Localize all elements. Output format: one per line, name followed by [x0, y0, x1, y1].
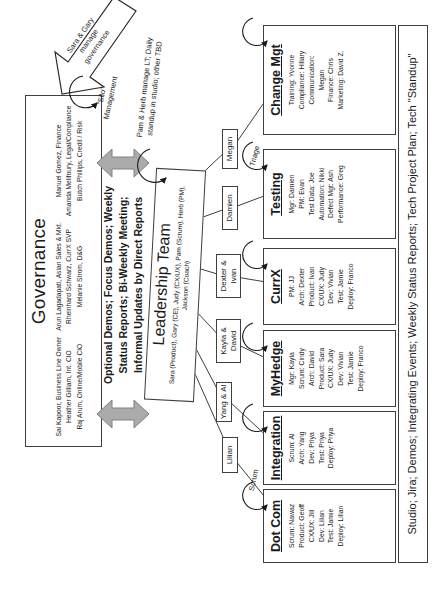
governance-member: Manuel Gomez, Finance — [54, 106, 64, 217]
cadence-line: Status Reports; Bi-Weekly Meeting; — [116, 171, 131, 399]
governance-member: Raj Arum, Online/Mobile CIO — [75, 337, 85, 437]
governance-member: Amanda Melifoury, Legal/Compliance — [64, 106, 74, 217]
governance-member: Arun Lagadapati, Asian Sales & Mkt. — [54, 222, 64, 331]
lead-name: Megan — [225, 137, 234, 161]
roster-line: Deploy: Priya — [326, 412, 336, 484]
roster-line: Deploy: Lilian — [336, 490, 346, 562]
roster-line: Arch: Yang — [297, 412, 307, 484]
team-roster: Mgr: Damien PM: Evan Test Data: Joe Auto… — [287, 150, 346, 238]
governance-member: Heather Gilliam, Int. CIO — [64, 337, 74, 437]
lead-name: Damien — [225, 194, 234, 222]
roster-line: Dev: Vivian — [326, 249, 336, 324]
roster-line: Product: Geoff — [297, 490, 307, 562]
governance-members: Sai Kapoor, Business Line Owner Heather … — [54, 96, 85, 446]
roster-line: Marketing: David Z. — [336, 26, 346, 134]
lead-box-dexter-ivan: Dexter & Ivan — [216, 254, 241, 298]
team-title: Dot Com — [269, 490, 283, 562]
governance-member: Butch Phillips, Credit / Risk — [75, 106, 85, 217]
roster-line: Megan — [317, 26, 327, 134]
roster-line: Scrum: Nawaz — [287, 490, 297, 562]
roster-line: PM: JJ — [287, 249, 297, 324]
rotated-diagram-screenshot: Governance Sai Kapoor, Business Line Own… — [0, 0, 441, 599]
lead-box-lilian: Lilian — [222, 437, 238, 473]
shared-tools-bar: Studio; Jira; Demos; Integrating Events;… — [398, 25, 428, 563]
reporting-cadence-text: Optional Demos; Focus Demos; Weekly Stat… — [101, 171, 147, 399]
roster-line: Test: Jamie — [336, 249, 346, 324]
team-roster: Scrum: Nawaz Product: Geoff CX/UX: Jill … — [287, 490, 346, 562]
roster-line: Performance: Greg — [336, 150, 346, 238]
cadence-line: Informal Updates by Direct Reports — [131, 171, 146, 399]
lead-box-megan: Megan — [222, 129, 238, 169]
governance-column-3: Manuel Gomez, Finance Amanda Melifoury, … — [54, 106, 85, 217]
team-title: Integration — [269, 412, 283, 484]
roster-line: Dev: Vivian — [336, 331, 346, 406]
team-roster: PM: JJ Arch: Dexter Product: Ivan CX/UX:… — [287, 249, 356, 324]
roster-line: Communication: — [307, 26, 317, 134]
team-box-myhedge: MyHedge Mgr: Kayla Scrum: Cindy Arch: Da… — [263, 330, 396, 407]
roster-line: Mgr: Damien — [287, 150, 297, 238]
team-roster: Scrum: Al Arch: Yang Dev: Priya Test: Pr… — [287, 412, 336, 484]
roster-line: CX/UX: Judy — [317, 249, 327, 324]
roster-line: Training: Yvonne — [287, 26, 297, 134]
roster-line: Arch: Dexter — [297, 249, 307, 324]
roster-line: Compliance: Hillary — [297, 26, 307, 134]
roster-line: Deploy: Franco — [346, 249, 356, 324]
roster-line: Test Data: Joe — [307, 150, 317, 238]
governance-member: Rheinhard Schwarz, CurrX SVP — [64, 222, 74, 331]
team-title: Testing — [269, 150, 283, 238]
roster-line: Product: Sara — [317, 331, 327, 406]
roster-line: PM: Evan — [297, 150, 307, 238]
team-box-changemgt: Change Mgt Training: Yvonne Compliance: … — [263, 25, 396, 135]
team-title: MyHedge — [269, 331, 283, 406]
roster-line: CX/UX: Judy — [326, 331, 336, 406]
roster-line: Deploy: Franco — [356, 331, 366, 406]
roster-line: Test: Priya — [317, 412, 327, 484]
lead-name: Dexter & Ivan — [219, 260, 238, 291]
shared-tools-text: Studio; Jira; Demos; Integrating Events;… — [399, 26, 426, 562]
lead-box-kayla-david: Kayla & David — [216, 319, 241, 363]
team-box-testing: Testing Mgr: Damien PM: Evan Test Data: … — [263, 149, 396, 239]
roster-line: Defect Mgt: Ash — [326, 150, 336, 238]
cadence-line: Optional Demos; Focus Demos; Weekly — [101, 171, 116, 399]
lead-box-yang-al: Yang & Al — [216, 382, 232, 422]
roster-line: CX/UX: Jill — [307, 490, 317, 562]
team-title: Change Mgt — [269, 26, 283, 134]
roster-line: Arch: David — [307, 331, 317, 406]
lead-name: Kayla & David — [219, 327, 238, 355]
roster-line: Product: Ivan — [307, 249, 317, 324]
roster-line: Scrum: Al — [287, 412, 297, 484]
roster-line: Test: Jamie — [326, 490, 336, 562]
governance-title: Governance — [28, 96, 50, 446]
lead-box-damien: Damien — [222, 186, 238, 230]
team-box-currx: CurrX PM: JJ Arch: Dexter Product: Ivan … — [263, 248, 396, 325]
roster-line: Automation: Nikki — [317, 150, 327, 238]
roster-line: Scrum: Cindy — [297, 331, 307, 406]
roster-line: Mgr: Kayla — [287, 331, 297, 406]
roster-line: Dev: Priya — [307, 412, 317, 484]
roster-line: Finance: Chris — [326, 26, 336, 134]
governance-member: Sai Kapoor, Business Line Owner — [54, 337, 64, 437]
lead-name: Yang & Al — [219, 385, 228, 420]
governance-column-2: Arun Lagadapati, Asian Sales & Mkt. Rhei… — [54, 222, 85, 331]
governance-column-1: Sai Kapoor, Business Line Owner Heather … — [54, 337, 85, 437]
lead-name: Lilian — [225, 446, 234, 465]
roster-line: Dev: Lilian — [317, 490, 327, 562]
governance-member: Melanie Strom, D&G — [75, 222, 85, 331]
team-roster: Mgr: Kayla Scrum: Cindy Arch: David Prod… — [287, 331, 366, 406]
team-roster: Training: Yvonne Compliance: Hillary Com… — [287, 26, 346, 134]
roster-line: Test: Jamie — [346, 331, 356, 406]
team-title: CurrX — [269, 249, 283, 324]
governance-box: Governance Sai Kapoor, Business Line Own… — [25, 95, 102, 447]
team-box-dotcom: Dot Com Scrum: Nawaz Product: Geoff CX/U… — [263, 489, 396, 563]
team-box-integration: Integration Scrum: Al Arch: Yang Dev: Pr… — [263, 411, 396, 485]
team-governance-diagram: Governance Sai Kapoor, Business Line Own… — [0, 0, 441, 599]
